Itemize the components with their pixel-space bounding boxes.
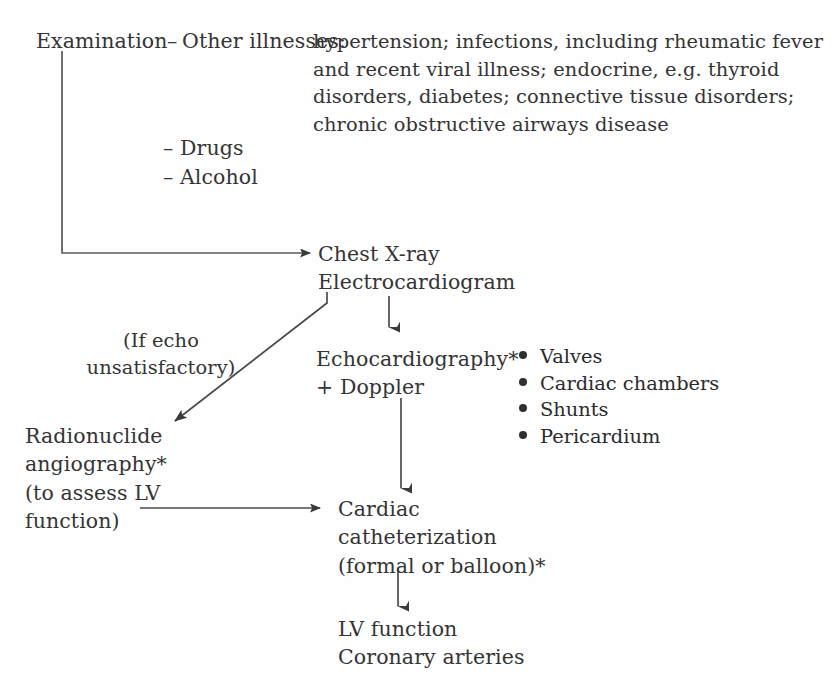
node-if-echo-unsatisfactory: (If echo unsatisfactory): [56, 328, 266, 382]
diagram-canvas: Examination – Other illnesses: hypertens…: [0, 0, 840, 681]
node-chest-xray-electrocardiogram: Chest X-ray Electrocardiogram: [318, 240, 515, 297]
list-item: Shunts: [519, 398, 719, 425]
node-examination: Examination: [36, 28, 168, 55]
node-radionuclide-angiography: Radionuclide angiography* (to assess LV …: [25, 422, 167, 535]
list-item-label: Pericardium: [540, 425, 660, 448]
node-drugs-alcohol: – Drugs – Alcohol: [163, 134, 258, 192]
list-item: Pericardium: [519, 425, 719, 452]
node-echocardiography-doppler: Echocardiography* + Doppler: [316, 345, 519, 402]
node-cardiac-catheterization: Cardiac catheterization (formal or ballo…: [338, 495, 546, 580]
bullet-dot-icon: [519, 378, 527, 386]
node-outcomes: LV function Coronary arteries: [338, 615, 525, 672]
list-item-label: Valves: [540, 345, 602, 368]
echo-findings-list: Valves Cardiac chambers Shunts Pericardi…: [519, 345, 719, 451]
dash-separator-other-illnesses: –: [167, 28, 177, 55]
bullet-dot-icon: [519, 404, 527, 412]
list-item-label: Shunts: [540, 398, 609, 421]
list-item-label: Cardiac chambers: [540, 372, 719, 395]
list-item: Valves: [519, 345, 719, 372]
bullet-dot-icon: [519, 431, 527, 439]
list-item: Cardiac chambers: [519, 372, 719, 399]
bullet-dot-icon: [519, 351, 527, 359]
node-other-illnesses-body: hypertension; infections, including rheu…: [313, 28, 833, 138]
